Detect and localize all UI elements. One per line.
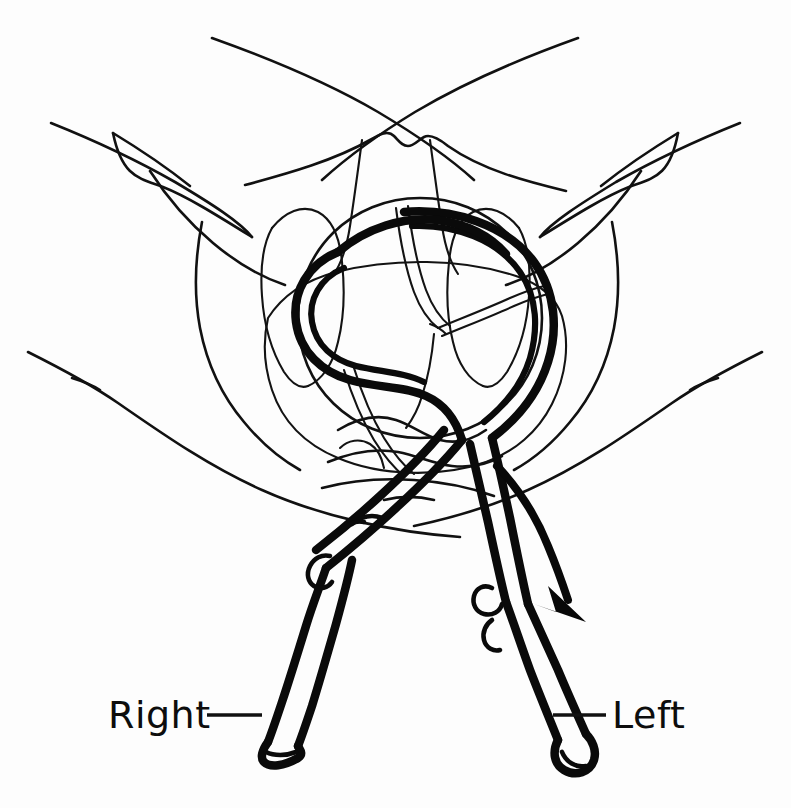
figure-root: Right Left xyxy=(0,0,791,808)
forceps-illustration: Right Left xyxy=(0,0,791,808)
label-left-text: Left xyxy=(612,693,686,737)
label-right-text: Right xyxy=(108,693,211,737)
